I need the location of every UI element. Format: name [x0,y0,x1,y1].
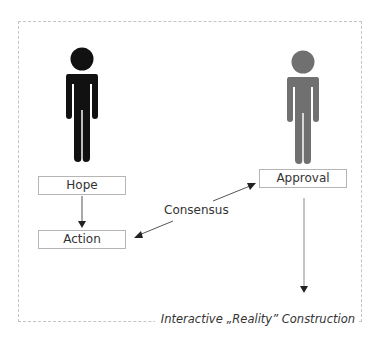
arrow-approval-down [300,198,308,293]
diagram-caption: Interactive „Reality” Construction [155,312,359,326]
node-action: Action [38,230,126,249]
node-approval: Approval [259,169,347,188]
arrow-hope-to-action [78,196,86,228]
edge-label-consensus: Consensus [164,203,229,217]
node-hope: Hope [38,176,126,195]
